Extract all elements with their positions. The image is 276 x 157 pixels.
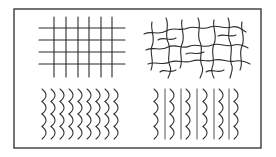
- arc-segment: [114, 89, 118, 102]
- arc-segment: [203, 89, 207, 102]
- arc-segment: [96, 102, 100, 115]
- arc-segment: [96, 89, 100, 102]
- arc-segment: [69, 89, 73, 102]
- arc-segment: [42, 127, 46, 140]
- arc-segment: [186, 89, 190, 102]
- arc-segment: [186, 114, 190, 127]
- arc-segment: [186, 102, 190, 115]
- network-strand: [206, 70, 224, 72]
- arc-segment: [60, 89, 64, 102]
- arc-segment: [234, 127, 238, 140]
- arc-segment: [69, 114, 73, 127]
- arc-array-panel: [42, 89, 118, 139]
- arc-segment: [69, 127, 73, 140]
- arc-segment: [78, 127, 82, 140]
- arc-segment: [51, 102, 55, 115]
- arc-segment: [105, 127, 109, 140]
- arc-segment: [170, 127, 174, 140]
- network-strand: [144, 26, 246, 34]
- arc-segment: [60, 114, 64, 127]
- arc-segment: [154, 102, 158, 115]
- arc-segment: [170, 102, 174, 115]
- arc-segment: [42, 114, 46, 127]
- pattern-diagram: [0, 0, 276, 157]
- arc-segment: [234, 102, 238, 115]
- arc-segment: [219, 127, 223, 140]
- arc-segment: [114, 127, 118, 140]
- arc-segment: [219, 114, 223, 127]
- network-pattern-panel: [144, 18, 250, 78]
- arc-segment: [51, 127, 55, 140]
- arc-segment: [170, 114, 174, 127]
- network-strand: [218, 35, 236, 36]
- network-strand: [148, 60, 250, 64]
- arc-segment: [69, 102, 73, 115]
- network-strand: [198, 18, 203, 78]
- grid-pattern-panel: [39, 17, 125, 77]
- network-strand: [146, 44, 248, 50]
- arc-segment: [78, 89, 82, 102]
- arc-segment: [105, 102, 109, 115]
- arc-segment: [154, 114, 158, 127]
- arc-segment: [114, 114, 118, 127]
- network-strand: [160, 70, 176, 72]
- arc-segment: [87, 102, 91, 115]
- arc-segment: [186, 127, 190, 140]
- arc-segment: [42, 89, 46, 102]
- arc-segment: [60, 127, 64, 140]
- arc-segment: [96, 127, 100, 140]
- arc-segment: [219, 102, 223, 115]
- arc-segment: [42, 102, 46, 115]
- network-strand: [180, 20, 183, 68]
- arc-segment: [51, 89, 55, 102]
- arc-segment: [219, 89, 223, 102]
- arc-segment: [234, 89, 238, 102]
- arc-segment: [170, 89, 174, 102]
- arc-segment: [105, 114, 109, 127]
- arc-segment: [60, 102, 64, 115]
- arc-segment: [203, 102, 207, 115]
- arc-segment: [154, 127, 158, 140]
- arc-segment: [114, 102, 118, 115]
- arc-segment: [203, 127, 207, 140]
- arc-segment: [154, 89, 158, 102]
- arc-segment: [234, 114, 238, 127]
- arc-segment: [87, 114, 91, 127]
- arc-segment: [87, 89, 91, 102]
- arc-segment: [78, 102, 82, 115]
- arc-segment: [51, 114, 55, 127]
- arc-segment: [96, 114, 100, 127]
- arc-segment: [87, 127, 91, 140]
- network-strand: [212, 20, 216, 78]
- arc-segment: [203, 114, 207, 127]
- arc-line-alternating-panel: [154, 89, 238, 139]
- arc-segment: [78, 114, 82, 127]
- arc-segment: [105, 89, 109, 102]
